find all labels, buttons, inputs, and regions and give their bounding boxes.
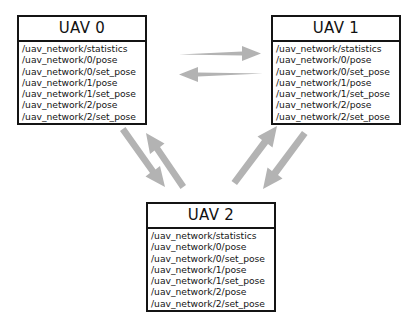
topic-item: /uav_network/2/pose bbox=[148, 286, 274, 297]
topic-item: /uav_network/2/pose bbox=[273, 99, 399, 110]
topic-list: /uav_network/statistics /uav_network/0/p… bbox=[273, 42, 399, 123]
topic-item: /uav_network/0/pose bbox=[148, 241, 274, 252]
topic-item: /uav_network/2/pose bbox=[19, 99, 145, 110]
uav-node-title: UAV 2 bbox=[148, 204, 274, 229]
topic-item: /uav_network/2/set_pose bbox=[273, 111, 399, 122]
topic-list: /uav_network/statistics /uav_network/0/p… bbox=[148, 229, 274, 310]
topic-item: /uav_network/1/set_pose bbox=[19, 88, 145, 99]
edge-uav0-to-uav2 bbox=[120, 127, 165, 187]
edge-uav2-to-uav0 bbox=[146, 133, 186, 189]
topic-item: /uav_network/0/pose bbox=[19, 54, 145, 65]
topic-item: /uav_network/statistics bbox=[19, 43, 145, 54]
topic-item: /uav_network/1/set_pose bbox=[148, 275, 274, 286]
topic-item: /uav_network/statistics bbox=[273, 43, 399, 54]
topic-item: /uav_network/0/set_pose bbox=[19, 66, 145, 77]
topic-item: /uav_network/0/set_pose bbox=[273, 66, 399, 77]
topic-list: /uav_network/statistics /uav_network/0/p… bbox=[19, 42, 145, 123]
topic-item: /uav_network/1/pose bbox=[148, 264, 274, 275]
topic-item: /uav_network/1/pose bbox=[19, 77, 145, 88]
uav-node-title: UAV 1 bbox=[273, 17, 399, 42]
edge-uav1-to-uav0 bbox=[179, 67, 263, 82]
topic-item: /uav_network/2/set_pose bbox=[19, 111, 145, 122]
topic-item: /uav_network/1/set_pose bbox=[273, 88, 399, 99]
uav-node-uav1[interactable]: UAV 1 /uav_network/statistics /uav_netwo… bbox=[271, 15, 401, 125]
uav-node-title: UAV 0 bbox=[19, 17, 145, 42]
topic-item: /uav_network/0/pose bbox=[273, 54, 399, 65]
topic-item: /uav_network/statistics bbox=[148, 230, 274, 241]
uav-node-uav2[interactable]: UAV 2 /uav_network/statistics /uav_netwo… bbox=[146, 202, 276, 312]
edge-uav0-to-uav1 bbox=[179, 46, 261, 61]
topic-item: /uav_network/0/set_pose bbox=[148, 253, 274, 264]
topic-item: /uav_network/2/set_pose bbox=[148, 298, 274, 309]
diagram-canvas: UAV 0 /uav_network/statistics /uav_netwo… bbox=[0, 0, 417, 324]
topic-item: /uav_network/1/pose bbox=[273, 77, 399, 88]
uav-node-uav0[interactable]: UAV 0 /uav_network/statistics /uav_netwo… bbox=[17, 15, 147, 125]
